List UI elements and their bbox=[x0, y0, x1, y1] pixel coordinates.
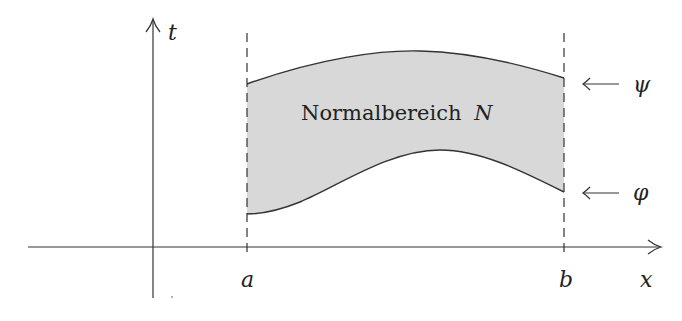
normal-region-fill bbox=[247, 51, 564, 214]
arrow-to-psi-icon bbox=[583, 78, 619, 90]
psi-label: ψ bbox=[633, 72, 651, 97]
bound-b-label: b bbox=[559, 267, 573, 292]
x-axis-label: x bbox=[640, 267, 653, 292]
normal-region-diagram: t x a b ψ φ Normalbereich N bbox=[0, 0, 682, 321]
region-symbol: N bbox=[473, 101, 493, 125]
arrow-to-phi-icon bbox=[583, 187, 619, 199]
stray-dot bbox=[171, 296, 173, 298]
region-label: Normalbereich N bbox=[301, 101, 493, 125]
phi-label: φ bbox=[633, 180, 649, 205]
y-axis-label: t bbox=[168, 20, 177, 45]
bound-a-label: a bbox=[241, 267, 254, 292]
region-name: Normalbereich bbox=[301, 101, 462, 125]
